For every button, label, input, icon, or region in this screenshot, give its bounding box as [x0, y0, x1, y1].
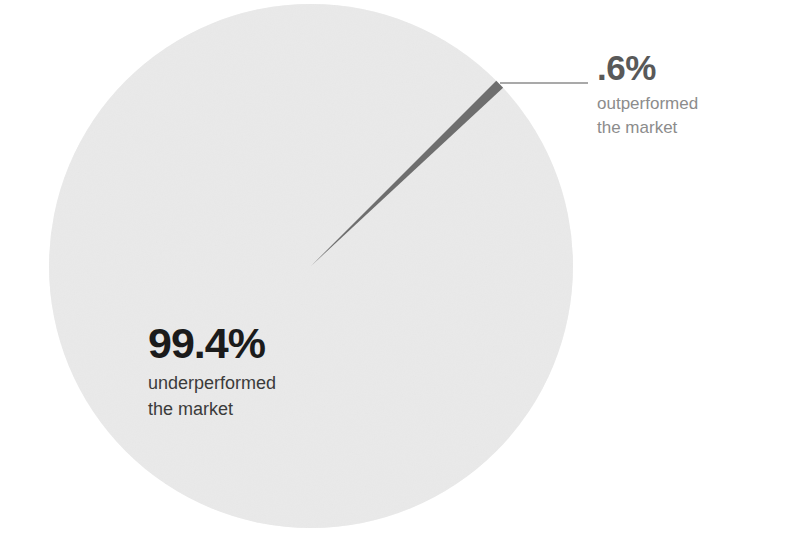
callout-underperformed: 99.4% underperformed the market: [148, 322, 398, 422]
underperformed-description: underperformed the market: [148, 371, 398, 422]
outperformed-percent: .6%: [597, 50, 787, 85]
outperformed-description-line1: outperformed: [597, 92, 787, 116]
underperformed-percent: 99.4%: [148, 322, 398, 365]
underperformed-description-line2: the market: [148, 397, 398, 423]
outperformed-description-line2: the market: [597, 116, 787, 140]
outperformed-description: outperformed the market: [597, 92, 787, 140]
pie-chart: .6% outperformed the market 99.4% underp…: [0, 0, 792, 536]
underperformed-description-line1: underperformed: [148, 371, 398, 397]
callout-outperformed: .6% outperformed the market: [597, 50, 787, 140]
